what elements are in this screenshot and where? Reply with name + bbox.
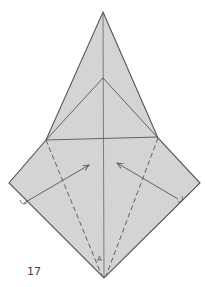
step-number: 17 (27, 265, 41, 278)
origami-diagram (0, 0, 205, 287)
point-label-a: A (97, 255, 102, 263)
paper-shape (9, 12, 200, 278)
